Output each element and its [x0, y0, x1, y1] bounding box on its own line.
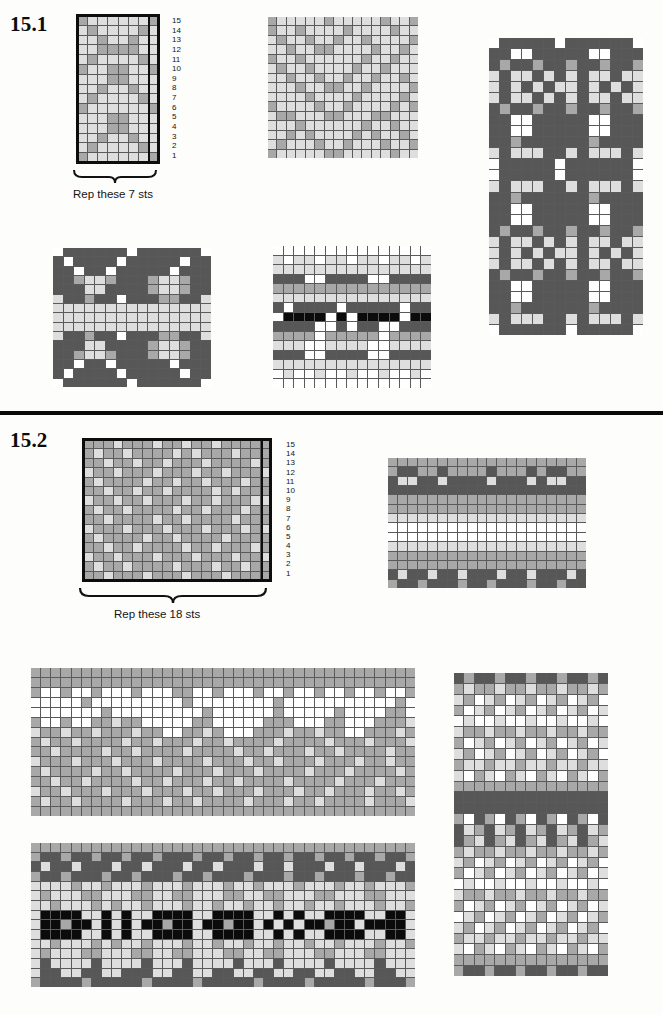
chart-cell	[362, 45, 370, 53]
chart-cell	[335, 940, 344, 949]
chart-cell	[244, 920, 253, 929]
chart-cell	[78, 104, 87, 113]
chart-cell	[192, 468, 201, 476]
chart-cell	[85, 295, 95, 303]
chart-cell	[418, 495, 427, 503]
chart-cell	[241, 534, 250, 542]
chart-cell	[106, 341, 116, 349]
chart-cell	[315, 901, 324, 910]
chart-cell	[224, 757, 233, 766]
chart-cell	[396, 872, 405, 881]
chart-cell	[92, 678, 101, 687]
chart-cell	[129, 26, 138, 35]
chart-cell	[557, 858, 566, 868]
chart-cell	[153, 562, 162, 570]
chart-cell	[193, 853, 202, 862]
chart-cell	[353, 131, 361, 139]
chart-cell	[241, 506, 250, 514]
chart-cell	[334, 74, 342, 82]
chart-cell	[600, 226, 610, 236]
chart-cell	[163, 688, 172, 697]
chart-cell	[163, 468, 172, 476]
chart-cell	[273, 379, 283, 388]
chart-cell	[325, 738, 334, 747]
chart-cell	[557, 782, 566, 792]
chart-cell	[489, 159, 499, 169]
chart-cell	[600, 281, 610, 291]
chart-cell	[410, 93, 418, 101]
chart-cell	[489, 259, 499, 269]
chart-cell	[108, 153, 117, 162]
chart-cell	[244, 901, 253, 910]
chart-cell	[123, 449, 132, 457]
chart-cell	[112, 978, 121, 987]
chart-cell	[335, 708, 344, 717]
chart-cell	[284, 940, 293, 949]
chart-cell	[544, 126, 554, 136]
chart-cell	[544, 104, 554, 114]
chart-cell	[268, 83, 276, 91]
chart-cell	[622, 314, 632, 324]
chart-cell	[244, 668, 253, 677]
chart-cell	[139, 85, 148, 94]
chart-cell	[633, 325, 643, 335]
chart-cell	[375, 797, 384, 806]
chart-cell	[122, 807, 131, 816]
chart-cell	[264, 678, 273, 687]
chart-cell	[112, 688, 121, 697]
chart-cell	[533, 292, 543, 302]
chart-cell	[368, 360, 378, 369]
chart-cell	[294, 757, 303, 766]
chart-cell	[132, 911, 141, 920]
chart-cell	[138, 304, 148, 312]
chart-cell	[72, 678, 81, 687]
chart-cell	[533, 148, 543, 158]
chart-cell	[183, 797, 192, 806]
chart-cell	[163, 506, 172, 514]
chart-cell	[485, 782, 494, 792]
chart-cell	[123, 562, 132, 570]
chart-cell	[102, 728, 111, 737]
chart-cell	[388, 580, 397, 588]
chart-cell	[183, 882, 192, 891]
chart-cell	[64, 341, 74, 349]
chart-cell	[84, 468, 93, 476]
chart-cell	[386, 911, 395, 920]
chart-cell	[51, 787, 60, 796]
chart-cell	[284, 872, 293, 881]
chart-cell	[368, 313, 378, 322]
chart-cell	[497, 486, 506, 494]
chart-cell	[193, 901, 202, 910]
chart-cell	[201, 276, 211, 284]
chart-cell	[182, 496, 191, 504]
chart-cell	[527, 580, 536, 588]
chart-cell	[386, 807, 395, 816]
chart-cell	[153, 978, 162, 987]
chart-cell	[74, 369, 84, 377]
chart-cell	[406, 920, 415, 929]
chart-cell	[133, 478, 142, 486]
chart-cell	[557, 505, 566, 513]
chart-cell	[129, 55, 138, 64]
chart-cell	[400, 55, 408, 63]
chart-cell	[287, 150, 295, 158]
chart-cell	[375, 767, 384, 776]
chart-cell	[358, 379, 368, 388]
chart-cell	[600, 115, 610, 125]
chart-cell	[566, 314, 576, 324]
chart-cell	[485, 803, 494, 813]
chart-cell	[485, 706, 494, 716]
chart-cell	[421, 303, 431, 312]
chart-cell	[506, 684, 515, 694]
chart-cell	[61, 747, 70, 756]
chart-cell	[306, 131, 314, 139]
chart-cell	[495, 716, 504, 726]
chart-cell	[305, 930, 314, 939]
chart-cell	[537, 695, 546, 705]
chart-cell	[72, 747, 81, 756]
chart-cell	[173, 718, 182, 727]
chart-cell	[506, 868, 515, 878]
chart-cell	[567, 580, 576, 588]
chart-cell	[567, 523, 576, 531]
chart-cell	[526, 901, 535, 911]
